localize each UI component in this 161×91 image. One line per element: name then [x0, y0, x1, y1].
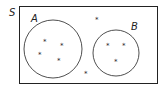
element-star: *: [57, 57, 61, 65]
venn-diagram: S A B * * * * * * * * *: [0, 0, 161, 91]
element-star: *: [114, 58, 118, 66]
element-star: *: [106, 42, 110, 50]
set-b-circle: [93, 30, 139, 76]
element-star: *: [60, 42, 64, 50]
element-star: *: [84, 70, 88, 78]
universal-set-label: S: [9, 7, 16, 18]
element-star: *: [43, 38, 47, 46]
element-star: *: [95, 16, 99, 24]
set-a-label: A: [30, 13, 38, 24]
universal-set-rectangle: [20, 7, 158, 84]
element-star: *: [38, 51, 42, 59]
set-b-label: B: [131, 21, 138, 32]
set-a-circle: [24, 20, 82, 78]
element-star: *: [122, 42, 126, 50]
